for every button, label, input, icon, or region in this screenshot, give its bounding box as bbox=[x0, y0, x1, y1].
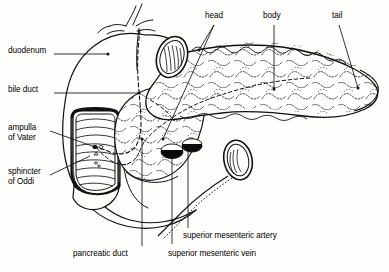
label-tail: tail bbox=[332, 11, 342, 21]
label-duodenum: duodenum bbox=[8, 46, 46, 56]
label-body: body bbox=[263, 11, 281, 21]
label-sphincter-of-oddi-line1: sphincter bbox=[8, 167, 41, 177]
label-superior-mesenteric-artery: superior mesenteric artery bbox=[183, 231, 277, 241]
label-head: head bbox=[205, 11, 223, 21]
sma-vessel bbox=[182, 139, 202, 152]
label-pancreatic-duct: pancreatic duct bbox=[73, 249, 128, 259]
label-superior-mesenteric-vein: superior mesenteric vein bbox=[168, 249, 256, 259]
label-ampulla-of-vater-line1: ampulla bbox=[8, 123, 36, 133]
label-bile-duct: bile duct bbox=[8, 85, 38, 95]
label-sphincter-of-oddi-line2: of Oddi bbox=[8, 177, 34, 187]
duodenum-window bbox=[72, 108, 119, 209]
label-ampulla-of-vater-line2: of Vater bbox=[8, 133, 36, 143]
figure-canvas: duodenum bile duct ampulla of Vater sphi… bbox=[0, 0, 389, 272]
